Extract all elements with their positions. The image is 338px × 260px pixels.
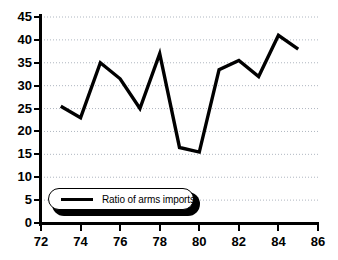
y-tick-25 [34,108,41,110]
y-tick-40 [34,39,41,41]
x-tick-label-72: 72 [27,235,55,248]
x-tick-72 [40,224,42,231]
x-tick-label-74: 74 [67,235,95,248]
x-tick-label-80: 80 [185,235,213,248]
y-tick-45 [34,16,41,18]
y-tick-10 [34,176,41,178]
chart-legend: Ratio of arms imports [48,188,200,216]
x-tick-label-84: 84 [264,235,292,248]
x-tick-label-78: 78 [146,235,174,248]
x-tick-78 [159,224,161,231]
y-axis-labels: 051015202530354045 [0,0,32,260]
x-tick-84 [277,224,279,231]
x-tick-86 [317,224,319,231]
line-chart: 051015202530354045 7274767880828486 Rati… [0,0,338,260]
y-tick-35 [34,62,41,64]
y-tick-20 [34,130,41,132]
y-tick-label-35: 35 [2,56,32,69]
y-tick-label-15: 15 [2,147,32,160]
x-tick-80 [198,224,200,231]
y-tick-5 [34,199,41,201]
y-tick-label-40: 40 [2,33,32,46]
y-tick-label-0: 0 [2,216,32,229]
legend-label: Ratio of arms imports [102,194,195,205]
x-tick-label-76: 76 [106,235,134,248]
y-axis-line [39,14,42,226]
y-tick-15 [34,153,41,155]
y-tick-label-45: 45 [2,10,32,23]
series-line-ratio-of-arms-imports [61,35,298,152]
x-tick-label-82: 82 [225,235,253,248]
y-tick-label-10: 10 [2,170,32,183]
x-tick-label-86: 86 [304,235,332,248]
x-tick-76 [119,224,121,231]
y-tick-label-25: 25 [2,102,32,115]
legend-line-swatch [61,198,93,201]
y-tick-30 [34,85,41,87]
x-tick-82 [238,224,240,231]
legend-box: Ratio of arms imports [48,188,194,210]
y-tick-label-5: 5 [2,193,32,206]
y-tick-label-30: 30 [2,79,32,92]
x-tick-74 [80,224,82,231]
y-tick-label-20: 20 [2,124,32,137]
